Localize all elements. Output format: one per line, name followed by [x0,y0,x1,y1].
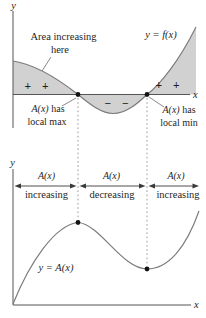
interval-arrow-1-left-head [15,183,22,188]
area-function-curve [13,211,199,304]
top-x-axis-label: x [192,89,198,100]
interval-1-word-label: increasing [25,189,69,200]
interval-2-word-label: decreasing [90,189,136,200]
lower-graph: y x A(x) increasing A(x) decreasing A(x)… [9,157,200,310]
f-curve-label: y = f(x) [144,29,177,41]
local-max-note-line2: local max [27,116,66,127]
upper-graph: y x y = f(x) Area increasing here + + − … [10,0,198,128]
interval-3-word-label: increasing [156,189,200,200]
area-note-line1: Area increasing [30,31,97,42]
interval-arrow-1-right-head [70,183,77,188]
area-note-pointer-line [42,57,51,71]
plus-signs-right: + + [156,79,181,91]
zero-crossing-dot-left [76,92,81,97]
local-max-dot [76,220,81,225]
interval-3-math-label: A(x) [166,170,185,182]
interval-1-math-label: A(x) [37,170,56,182]
local-min-note-line2: local min [160,117,198,128]
interval-2-math-label: A(x) [102,170,121,182]
top-y-axis-label: y [10,0,16,11]
local-max-note-line1: A(x) has [30,103,64,115]
plus-signs-left: + + [25,80,50,92]
local-min-note-line1: A(x) has [161,104,195,116]
calculus-area-function-figure: y x y = f(x) Area increasing here + + − … [0,0,206,318]
bottom-x-axis-label: x [193,299,199,310]
minus-signs-middle: − − [105,97,130,109]
bottom-y-axis-label: y [9,157,15,168]
interval-arrow-3-right-head [193,183,200,188]
zero-crossing-dot-right [145,92,150,97]
area-curve-label: y = A(x) [38,262,74,274]
interval-arrow-3-left-head [149,183,156,188]
interval-arrow-2-left-head [80,183,87,188]
area-note-line2: here [51,44,69,55]
interval-arrow-2-right-head [139,183,146,188]
local-min-dot [145,267,150,272]
